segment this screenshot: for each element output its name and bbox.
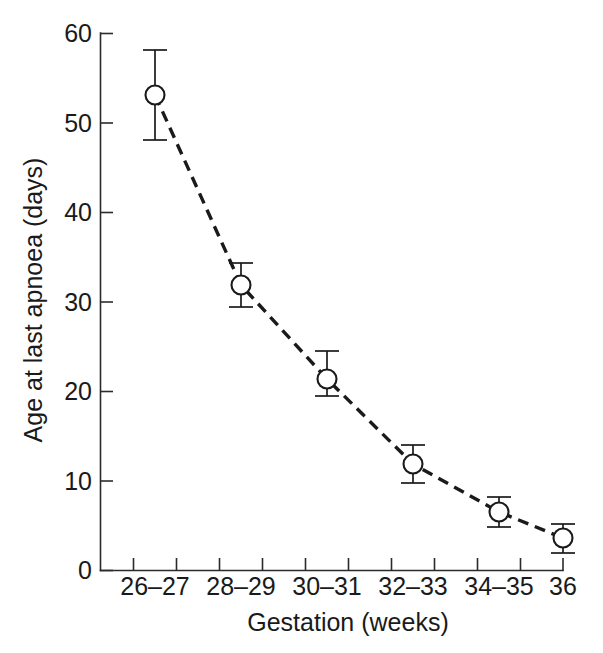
x-axis-tick-labels: 26–27 28–29 30–31 32–33 34–35 36 bbox=[120, 572, 577, 600]
data-point-group-5 bbox=[551, 524, 575, 553]
y-axis-tick-labels: 60 50 40 30 20 10 0 bbox=[64, 19, 92, 584]
y-tick-label-50: 50 bbox=[64, 109, 92, 137]
data-marker-0 bbox=[146, 86, 165, 105]
data-marker-4 bbox=[490, 503, 509, 522]
y-tick-label-0: 0 bbox=[78, 556, 92, 584]
trend-line-dashed bbox=[155, 95, 563, 538]
chart-figure: 60 50 40 30 20 10 0 26–27 28–29 30–31 bbox=[0, 0, 603, 653]
y-tick-label-30: 30 bbox=[64, 288, 92, 316]
x-tick-label-3: 32–33 bbox=[378, 572, 448, 600]
x-tick-label-5: 36 bbox=[549, 572, 577, 600]
data-marker-1 bbox=[232, 276, 251, 295]
x-tick-label-2: 30–31 bbox=[292, 572, 362, 600]
x-axis-title: Gestation (weeks) bbox=[247, 608, 448, 636]
x-axis-ticks bbox=[134, 558, 564, 571]
data-point-group-4 bbox=[487, 497, 511, 527]
data-point-group-1 bbox=[229, 263, 253, 307]
y-axis-title: Age at last apnoea (days) bbox=[19, 158, 47, 443]
data-marker-2 bbox=[318, 370, 337, 389]
y-tick-label-20: 20 bbox=[64, 377, 92, 405]
x-tick-label-1: 28–29 bbox=[206, 572, 276, 600]
x-tick-label-0: 26–27 bbox=[120, 572, 190, 600]
y-tick-label-60: 60 bbox=[64, 19, 92, 47]
data-point-group-3 bbox=[401, 445, 425, 483]
y-tick-label-10: 10 bbox=[64, 467, 92, 495]
data-marker-5 bbox=[554, 529, 573, 548]
data-marker-3 bbox=[404, 455, 423, 474]
x-tick-label-4: 34–35 bbox=[464, 572, 534, 600]
y-tick-label-40: 40 bbox=[64, 198, 92, 226]
y-axis-ticks bbox=[101, 34, 114, 571]
data-series-age-at-last-apnoea bbox=[143, 50, 575, 553]
data-point-group-0 bbox=[143, 50, 167, 140]
line-chart-plot: 60 50 40 30 20 10 0 26–27 28–29 30–31 bbox=[0, 0, 603, 653]
